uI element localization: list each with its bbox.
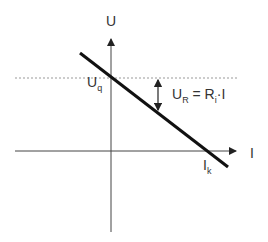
- ur-sub: R: [182, 95, 189, 105]
- current-factor: ·I: [217, 86, 226, 102]
- ur-main: U: [172, 86, 182, 102]
- y-axis-label: U: [106, 14, 116, 28]
- x-axis-label: I: [250, 146, 254, 160]
- characteristic-line: [80, 53, 228, 167]
- ri-sub: i: [215, 95, 217, 105]
- ik-sub: k: [207, 166, 212, 176]
- uq-label: Uq: [87, 75, 102, 89]
- ri-main: R: [205, 86, 215, 102]
- ik-label: Ik: [203, 158, 211, 172]
- equals: =: [189, 86, 205, 102]
- diagram-canvas: [0, 0, 268, 242]
- uq-main: U: [87, 74, 97, 90]
- voltage-drop-label: UR = Ri·I: [172, 87, 225, 101]
- uq-sub: q: [97, 83, 102, 93]
